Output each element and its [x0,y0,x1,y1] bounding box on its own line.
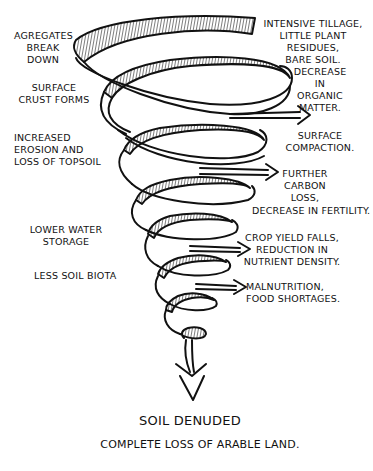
label-agregates-break-down: Agregates Break Down [14,30,72,66]
outcome-subtitle: Complete Loss of Arable Land. [100,438,300,452]
label-malnutrition: Malnutrition, Food Shortages. [246,281,356,305]
label-less-soil-biota: Less Soil Biota [34,270,144,282]
label-decrease-fertility: Decrease in Fertility. [252,205,372,217]
label-crop-yield-falls: Crop Yield Falls, Reduction in Nutrient … [240,232,344,268]
label-decrease-organic-matter: Decrease in Organic Matter. [290,66,350,114]
label-surface-compaction: Surface Compaction. [280,130,360,154]
label-lower-water-storage: Lower Water Storage [26,224,106,248]
label-increased-erosion: Increased Erosion and Loss of Topsoil [14,132,114,168]
label-further-carbon-loss: Further Carbon Loss, [270,168,340,204]
label-intensive-tillage: Intensive Tillage, Little Plant Residues… [254,18,372,66]
outcome-title: Soil Denuded [130,413,250,429]
label-surface-crust-forms: Surface Crust Forms [14,82,94,106]
